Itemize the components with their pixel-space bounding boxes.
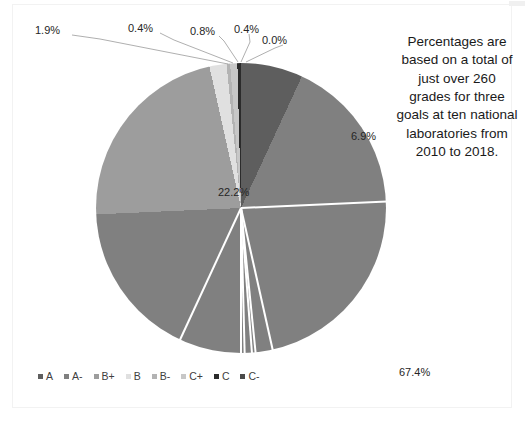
legend-label: B+ xyxy=(102,371,115,382)
legend-swatch-icon xyxy=(64,374,69,379)
legend-swatch-icon xyxy=(152,374,157,379)
legend-item-c-plus[interactable]: C+ xyxy=(181,371,203,382)
chart-legend: A A- B+ B B- C+ C C- xyxy=(38,371,260,382)
pie-chart[interactable]: 6.9% 67.4% 22.2% xyxy=(96,63,386,353)
legend-item-b-plus[interactable]: B+ xyxy=(94,371,115,382)
legend-swatch-icon xyxy=(126,374,131,379)
pie-data-label-b-plus: 22.2% xyxy=(218,186,249,198)
legend-label: A- xyxy=(72,371,83,382)
callout-label-b: 1.9% xyxy=(35,24,60,36)
pie-data-label-a-minus: 67.4% xyxy=(399,366,430,378)
explanatory-note: Percentages are based on a total of just… xyxy=(396,33,518,162)
pie-data-label-a: 6.9% xyxy=(351,130,376,142)
legend-label: C xyxy=(222,371,230,382)
legend-item-b-minus[interactable]: B- xyxy=(152,371,171,382)
slice-separator xyxy=(240,208,242,354)
legend-item-a-minus[interactable]: A- xyxy=(64,371,83,382)
legend-item-b[interactable]: B xyxy=(126,371,141,382)
legend-item-c[interactable]: C xyxy=(214,371,230,382)
legend-swatch-icon xyxy=(214,374,219,379)
legend-item-a[interactable]: A xyxy=(38,371,53,382)
legend-label: C- xyxy=(248,371,259,382)
legend-swatch-icon xyxy=(181,374,186,379)
legend-label: B- xyxy=(160,371,171,382)
legend-item-c-minus[interactable]: C- xyxy=(240,371,259,382)
callout-label-c-minus: 0.0% xyxy=(262,34,287,46)
legend-label: A xyxy=(46,371,53,382)
legend-swatch-icon xyxy=(240,374,245,379)
legend-label: C+ xyxy=(189,371,203,382)
callout-label-c-plus: 0.8% xyxy=(190,25,215,37)
legend-swatch-icon xyxy=(94,374,99,379)
callout-label-c: 0.4% xyxy=(234,23,259,35)
callout-label-b-minus: 0.4% xyxy=(128,22,153,34)
legend-label: B xyxy=(134,371,141,382)
legend-swatch-icon xyxy=(38,374,43,379)
chart-page: 6.9% 67.4% 22.2% 1.9% 0.4% 0.8% 0.4% 0.0… xyxy=(0,0,531,421)
corner-artifact xyxy=(509,1,525,6)
